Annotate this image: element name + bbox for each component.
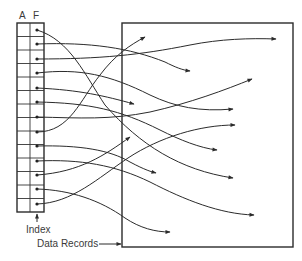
data-records-box [122, 23, 293, 247]
index-data-records-diagram [0, 0, 302, 261]
pointer-arrow [37, 44, 190, 71]
column-a-label: A [19, 11, 26, 21]
index-label: Index [26, 225, 50, 235]
column-f-label: F [33, 11, 39, 21]
pointer-arrow [37, 146, 156, 173]
pointer-arrow [37, 161, 254, 215]
data-records-label: Data Records [37, 239, 98, 249]
pointer-arrow [37, 79, 252, 118]
pointer-arrows [37, 30, 276, 232]
pointer-arrow [37, 102, 217, 150]
pointer-arrow [37, 189, 170, 232]
